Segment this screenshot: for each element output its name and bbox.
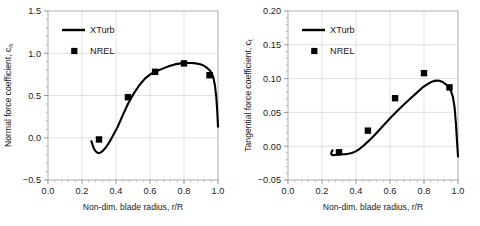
x-tick-labels: 0.00.20.40.60.81.0	[42, 186, 225, 196]
y-tick-labels: −0.050.000.050.100.150.20	[258, 6, 281, 185]
x-tick-label: 1.0	[212, 186, 225, 196]
legend: XTurbNREL	[62, 25, 115, 56]
x-tick-label: 0.6	[384, 186, 397, 196]
chart-panel-tangential-force: 0.00.20.40.60.81.0−0.050.000.050.100.150…	[240, 0, 480, 226]
y-axis-title-subscript: t	[247, 39, 254, 41]
y-tick-label: −0.05	[258, 175, 281, 185]
chart-panel-normal-force: 0.00.20.40.60.81.0−0.50.00.51.01.5Non-di…	[0, 0, 240, 226]
series-nrel-markers	[96, 60, 213, 142]
normal-force-chart-svg: 0.00.20.40.60.81.0−0.50.00.51.01.5Non-di…	[0, 0, 240, 226]
y-tick-label: 1.0	[28, 49, 41, 59]
figure-root: 0.00.20.40.60.81.0−0.50.00.51.01.5Non-di…	[0, 0, 480, 226]
y-axis-title-subscript: n	[7, 44, 14, 48]
x-tick-label: 0.6	[144, 186, 157, 196]
nrel-data-point	[392, 95, 398, 101]
xturb-curve	[331, 81, 458, 157]
legend: XTurbNREL	[302, 25, 355, 56]
y-tick-label: 0.10	[263, 74, 281, 84]
tangential-force-chart-svg: 0.00.20.40.60.81.0−0.050.000.050.100.150…	[240, 0, 480, 226]
legend-label-xturb: XTurb	[330, 25, 355, 35]
axis-ticks	[284, 11, 458, 184]
y-axis-title: Tangential force coefficient, ct	[243, 39, 254, 152]
plot-frame-rect	[288, 11, 458, 180]
legend-swatch-nrel-marker	[71, 48, 77, 54]
x-tick-label: 0.0	[42, 186, 55, 196]
plot-frame	[288, 11, 458, 180]
y-axis-title: Normal force coefficient, cn	[3, 44, 14, 147]
nrel-data-point	[152, 69, 158, 75]
nrel-data-point	[336, 149, 342, 155]
legend-label-nrel: NREL	[330, 46, 355, 56]
x-tick-label: 0.0	[282, 186, 295, 196]
x-tick-label: 0.8	[418, 186, 431, 196]
y-tick-label: 0.05	[263, 108, 281, 118]
legend-swatch-nrel-marker	[311, 48, 317, 54]
y-tick-label: 0.0	[28, 133, 41, 143]
nrel-data-point	[421, 70, 427, 76]
nrel-data-point	[206, 72, 212, 78]
nrel-data-point	[181, 60, 187, 66]
legend-label-nrel: NREL	[90, 46, 115, 56]
y-tick-label: −0.5	[23, 175, 41, 185]
nrel-data-point	[365, 127, 371, 133]
x-axis-title: Non-dim. blade radius, r/R	[83, 202, 183, 212]
x-tick-label: 0.4	[350, 186, 363, 196]
series-xturb-line	[91, 63, 218, 153]
x-tick-label: 0.2	[316, 186, 329, 196]
x-tick-label: 1.0	[452, 186, 465, 196]
x-tick-label: 0.2	[76, 186, 89, 196]
xturb-curve	[91, 63, 218, 153]
y-tick-label: 0.20	[263, 6, 281, 16]
gridlines	[288, 11, 458, 180]
nrel-data-point	[96, 136, 102, 142]
x-tick-label: 0.4	[110, 186, 123, 196]
x-tick-labels: 0.00.20.40.60.81.0	[282, 186, 465, 196]
nrel-data-point	[446, 84, 452, 90]
y-tick-label: 0.15	[263, 40, 281, 50]
y-tick-label: 0.5	[28, 91, 41, 101]
x-axis-title: Non-dim. blade radius, r/R	[323, 202, 423, 212]
y-tick-label: 0.00	[263, 142, 281, 152]
x-tick-label: 0.8	[178, 186, 191, 196]
y-tick-label: 1.5	[28, 6, 41, 16]
series-xturb-line	[331, 81, 458, 157]
nrel-data-point	[125, 94, 131, 100]
legend-label-xturb: XTurb	[90, 25, 115, 35]
y-tick-labels: −0.50.00.51.01.5	[23, 6, 41, 185]
